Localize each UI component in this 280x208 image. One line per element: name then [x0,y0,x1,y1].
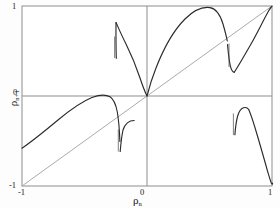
x-axis-title: ρn [133,195,142,207]
x-tick-label-right: 1 [268,188,272,197]
y-axis-title: ρn+1 [8,90,20,106]
y-tick-label-bottom: -1 [9,181,16,190]
y-tick-label-top: 1 [12,2,16,11]
y-axis-title-subscript: n+1 [13,90,20,101]
return-map-figure: 1 0 -1 -1 0 1 ρn ρn+1 [0,0,280,208]
x-tick-label-left: -1 [18,188,25,197]
plot-canvas [0,0,280,208]
x-axis-title-subscript: n [139,200,142,207]
y-axis-title-base: ρ [7,101,19,107]
y-axis-title-wrapper: ρn+1 [3,81,23,115]
